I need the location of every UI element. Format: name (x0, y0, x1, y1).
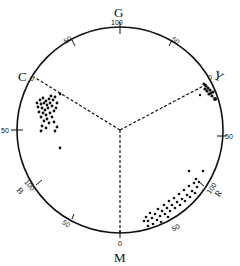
tick-label-g100: 100 (111, 19, 123, 26)
radial-line-y (120, 84, 207, 130)
label-y: Y (211, 67, 226, 85)
tick-label-bottom-right-50: 50 (171, 223, 181, 233)
tick-top-left-50 (72, 40, 75, 46)
tick-label-left-50: 50 (1, 127, 9, 134)
cluster-c-points (36, 93, 62, 150)
tick-label-c0: 0 (30, 75, 34, 82)
radial-lines (34, 77, 207, 233)
label-b: B (14, 185, 26, 196)
radial-line-c (34, 77, 120, 130)
ticks (11, 22, 226, 238)
label-m: M (114, 250, 126, 265)
tick-label-m0: 0 (118, 240, 122, 247)
label-r: R (212, 188, 224, 199)
tick-label-top-right-50: 50 (170, 35, 180, 45)
tick-b100 (36, 180, 42, 185)
tick-bottom-left-50 (72, 214, 74, 219)
label-c: C (18, 69, 27, 84)
color-circle-diagram: G 100 C 0 Y 0 50 50 50 50 100 B 50 50 10… (0, 0, 240, 266)
cluster-y-points (199, 82, 217, 101)
label-g: G (114, 5, 123, 20)
tick-label-y0: 0 (208, 74, 212, 81)
tick-label-right-50: 50 (225, 133, 233, 140)
